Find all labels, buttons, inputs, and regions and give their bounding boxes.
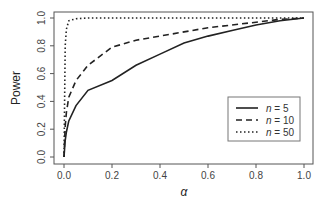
legend-label: n = 10	[266, 115, 295, 126]
y-axis: 0.00.20.40.60.81.0	[36, 11, 54, 164]
x-tick-label: 0.4	[153, 170, 167, 181]
x-axis: 0.00.20.40.60.81.0	[57, 164, 311, 181]
y-tick-label: 0.4	[36, 94, 47, 108]
y-axis-title: Power	[9, 71, 23, 105]
x-tick-label: 1.0	[297, 170, 311, 181]
y-tick-label: 1.0	[36, 11, 47, 25]
x-tick-label: 0.0	[57, 170, 71, 181]
y-tick-label: 0.0	[36, 150, 47, 164]
y-tick-label: 0.8	[36, 38, 47, 52]
legend-label: n = 50	[266, 127, 295, 138]
x-axis-title: α	[181, 185, 189, 199]
power-chart: 0.00.20.40.60.81.0 0.00.20.40.60.81.0 α …	[0, 0, 323, 203]
x-tick-label: 0.8	[249, 170, 263, 181]
y-tick-label: 0.6	[36, 66, 47, 80]
legend-label: n = 5	[266, 103, 289, 114]
x-tick-label: 0.2	[105, 170, 119, 181]
legend: n = 5n = 10n = 50	[228, 97, 300, 141]
y-tick-label: 0.2	[36, 122, 47, 136]
x-tick-label: 0.6	[201, 170, 215, 181]
